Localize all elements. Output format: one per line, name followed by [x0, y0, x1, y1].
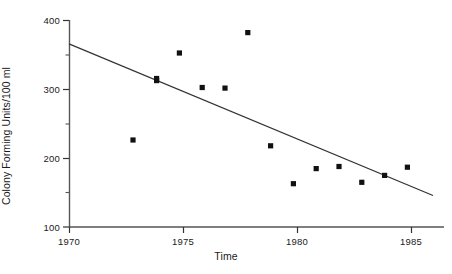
- data-point-marker: [405, 165, 410, 170]
- x-tick-label-1980: 1980: [286, 236, 308, 247]
- y-tick-label-300: 300: [38, 84, 60, 95]
- y-minor-ticks: [66, 55, 70, 193]
- plot-area-svg: [0, 0, 452, 274]
- y-axis-title: Colony Forming Units/100 ml: [0, 31, 12, 241]
- x-axis-title: Time: [0, 250, 452, 262]
- data-point-marker: [245, 30, 250, 35]
- x-tick-label-1970: 1970: [58, 236, 80, 247]
- data-point-marker: [200, 85, 205, 90]
- scatter-chart-figure: 400 300 200 100 1970 1975 1980 1985 Colo…: [0, 0, 452, 274]
- y-tick-label-100: 100: [38, 222, 60, 233]
- y-tick-label-400: 400: [38, 15, 60, 26]
- data-point-marker: [130, 137, 135, 142]
- y-tick-label-200: 200: [38, 153, 60, 164]
- data-point-marker: [359, 180, 364, 185]
- data-point-marker: [382, 173, 387, 178]
- data-point-marker: [314, 166, 319, 171]
- data-point-marker: [291, 181, 296, 186]
- data-point-marker: [222, 86, 227, 91]
- data-point-marker: [177, 50, 182, 55]
- data-points: [130, 30, 410, 186]
- data-point-marker: [336, 164, 341, 169]
- data-point-marker: [268, 143, 273, 148]
- x-major-ticks: [70, 227, 412, 233]
- data-point-marker: [154, 78, 159, 83]
- x-tick-label-1975: 1975: [172, 236, 194, 247]
- x-tick-label-1985: 1985: [400, 236, 422, 247]
- trend-line: [69, 44, 433, 196]
